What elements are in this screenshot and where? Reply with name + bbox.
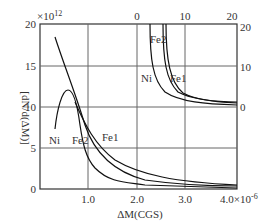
- top-axis-ticks: 0 10 20: [134, 10, 238, 22]
- bottom-tick-4: 4.0×10-6: [220, 192, 258, 205]
- bottom-tick-2: 2.0: [130, 193, 144, 205]
- label-fe1-secondary: Fe1: [170, 72, 187, 84]
- left-tick-15: 15: [25, 60, 37, 72]
- primary-curves: [55, 37, 237, 188]
- label-ni-primary: Ni: [49, 134, 60, 146]
- y-axis-label: [dN/d(ΔM)]: [19, 91, 32, 145]
- right-tick-10: 10: [240, 61, 252, 73]
- left-tick-20: 20: [25, 18, 37, 30]
- right-axis-ticks: 20 10 0: [240, 21, 252, 113]
- bottom-tick-1: 1.0: [81, 193, 95, 205]
- left-tick-0: 0: [31, 183, 37, 195]
- top-tick-20: 20: [227, 10, 239, 22]
- bottom-axis-ticks: 1.0 2.0 3.0: [81, 193, 192, 205]
- label-ni-secondary: Ni: [141, 72, 152, 84]
- chart: 20 15 10 5 0 ×1012 [dN/d(ΔM)] 1.0 2.0 3.…: [0, 0, 274, 224]
- label-fe1-primary: Fe1: [102, 131, 119, 143]
- y-multiplier: ×1012: [37, 9, 62, 22]
- top-tick-10: 10: [180, 10, 192, 22]
- curve-fe2-primary: [55, 37, 237, 186]
- label-fe2-primary: Fe2: [72, 134, 89, 146]
- gridlines: [40, 24, 237, 189]
- right-tick-20: 20: [240, 21, 252, 33]
- right-tick-0: 0: [240, 101, 246, 113]
- x-axis-label: ΔM(CGS): [117, 208, 163, 221]
- curve-labels: Ni Fe2 Fe1 Fe2 Ni Fe1: [49, 33, 187, 146]
- label-fe2-secondary: Fe2: [150, 33, 167, 45]
- top-tick-0: 0: [134, 10, 140, 22]
- curve-fe2-secondary: [163, 24, 237, 103]
- bottom-tick-3: 3.0: [178, 193, 192, 205]
